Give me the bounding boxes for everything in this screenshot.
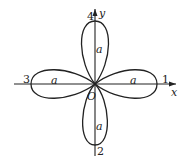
petal-number-4: 4 — [87, 11, 94, 22]
origin-label: O — [87, 91, 96, 102]
y-axis-label: y — [99, 8, 105, 19]
petal-length-right: a — [130, 75, 137, 86]
petal-length-down: a — [96, 121, 103, 132]
petal-number-3: 3 — [23, 74, 30, 85]
petal-number-2: 2 — [97, 146, 104, 157]
petal-length-left: a — [51, 75, 58, 86]
x-axis-label: x — [171, 87, 177, 98]
petal-number-1: 1 — [162, 74, 169, 85]
petal-length-up: a — [96, 44, 103, 55]
